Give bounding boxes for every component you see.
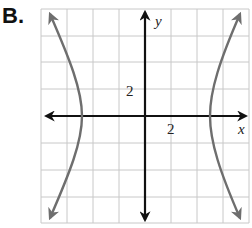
axes [46,12,246,220]
y-axis-label: y [153,13,162,29]
y-tick-label-2: 2 [126,83,134,99]
hyperbola-graph: y x 2 2 [0,0,252,228]
x-tick-label-2: 2 [167,121,175,137]
x-axis-label: x [237,121,245,137]
